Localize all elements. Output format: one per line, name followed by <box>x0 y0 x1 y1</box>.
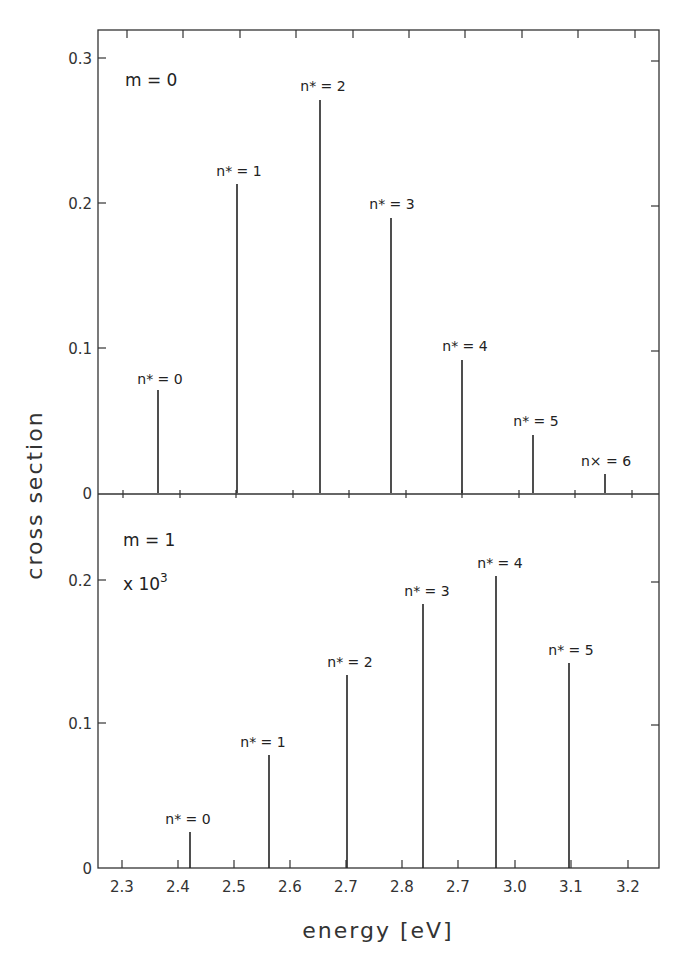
y-tick-label: 0.3 <box>68 50 92 68</box>
x-tick-label: 2.7 <box>334 878 358 896</box>
peak-label: n* = 3 <box>369 196 414 212</box>
x-tick-label: 3.2 <box>616 878 640 896</box>
y-tick-label: 0.2 <box>68 195 92 213</box>
y-tick-label: 0.1 <box>68 340 92 358</box>
x-tick-label: 2.7 <box>446 878 470 896</box>
right-y-ticks <box>651 61 659 725</box>
top-frame-ticks <box>127 30 635 38</box>
cross-section-chart: 0.3 0.2 0.1 0 0.2 0.1 0 2.3 2.4 2.5 2.6 … <box>0 0 683 960</box>
peak-label: n* = 2 <box>300 78 345 94</box>
peak-label: n* = 0 <box>165 811 210 827</box>
x-tick-label: 2.4 <box>166 878 190 896</box>
y-axis-title: cross section <box>22 410 47 579</box>
y-tick-label: 0 <box>82 860 92 878</box>
peak-label: n* = 5 <box>513 413 558 429</box>
peak-label: n* = 1 <box>240 734 285 750</box>
x-tick-label: 2.3 <box>110 878 134 896</box>
y-tick-label: 0.2 <box>68 572 92 590</box>
plot-frame <box>98 30 659 868</box>
peak-label: n* = 0 <box>137 371 182 387</box>
peak-label: n× = 6 <box>581 453 631 469</box>
top-panel-peaks: n* = 0 n* = 1 n* = 2 n* = 3 n* = 4 n* = … <box>137 78 631 493</box>
bottom-panel-scale-note: x 103 <box>123 571 168 594</box>
bottom-panel-peaks: n* = 0 n* = 1 n* = 2 n* = 3 n* = 4 n* = … <box>165 555 593 868</box>
x-tick-label: 2.6 <box>278 878 302 896</box>
x-tick-label: 2.8 <box>390 878 414 896</box>
left-y-ticks <box>98 58 106 723</box>
peak-label: n* = 4 <box>477 555 523 571</box>
y-tick-label: 0 <box>82 485 92 503</box>
x-tick-label: 3.0 <box>503 878 527 896</box>
peak-label: n* = 1 <box>216 163 261 179</box>
x-tick-label: 3.1 <box>559 878 583 896</box>
x-tick-labels: 2.3 2.4 2.5 2.6 2.7 2.8 2.7 3.0 3.1 3.2 <box>110 878 640 896</box>
x-axis-title: energy [eV] <box>302 918 453 943</box>
bottom-panel-label: m = 1 <box>123 530 175 550</box>
x-tick-label: 2.5 <box>222 878 246 896</box>
peak-label: n* = 3 <box>404 583 449 599</box>
peak-label: n* = 2 <box>327 654 372 670</box>
peak-label: n* = 4 <box>442 338 488 354</box>
top-panel-label: m = 0 <box>125 70 177 90</box>
peak-label: n* = 5 <box>548 642 593 658</box>
y-tick-label: 0.1 <box>68 715 92 733</box>
bottom-axis-ticks <box>122 860 628 868</box>
